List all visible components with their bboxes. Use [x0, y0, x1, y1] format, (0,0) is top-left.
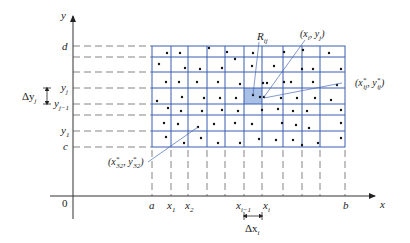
- svg-text:c: c: [63, 140, 68, 152]
- svg-text:x2: x2: [184, 199, 194, 214]
- x-axis-label: x: [379, 198, 385, 210]
- svg-text:b: b: [343, 199, 349, 211]
- region-Rij-label: Rij: [256, 30, 268, 45]
- y-axis-label: y: [60, 9, 66, 21]
- horizontal-dashed-guides: [73, 46, 152, 147]
- y-tick-labels: d yj yj−1 y1 c: [53, 40, 69, 152]
- delta-x-label: Δxi: [245, 222, 260, 237]
- sample-point-32-label: (x*32, y*32): [108, 155, 144, 170]
- svg-text:y1: y1: [60, 124, 69, 139]
- corner-point-label: (xi, yj): [300, 28, 325, 42]
- svg-text:xi: xi: [262, 199, 270, 214]
- svg-text:a: a: [149, 199, 155, 211]
- svg-text:yj−1: yj−1: [53, 97, 69, 112]
- svg-text:xi−1: xi−1: [235, 199, 251, 214]
- svg-text:d: d: [62, 40, 68, 52]
- delta-y-label: Δyj: [22, 90, 37, 105]
- svg-text:yj: yj: [60, 81, 68, 96]
- origin-label: 0: [62, 197, 68, 209]
- vertical-dashed-guides: [152, 150, 345, 196]
- sample-point-ij-label: (x*ij, y*ij): [355, 76, 385, 91]
- delta-y-bracket: [43, 88, 51, 104]
- riemann-partition-diagram: y x 0 d yj yj−1 y1 c a x1 x2 xi−1 xi b Δ…: [0, 0, 410, 243]
- svg-text:x1: x1: [166, 199, 175, 214]
- x-tick-labels: a x1 x2 xi−1 xi b: [149, 199, 349, 214]
